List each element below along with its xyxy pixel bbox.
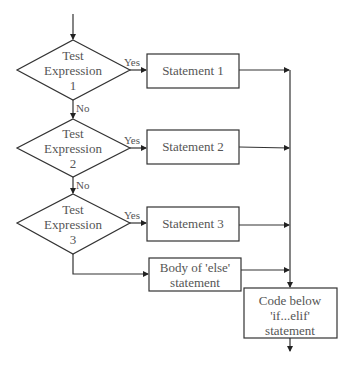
decision-1-line3: 1 (70, 78, 77, 93)
no-label-2: No (76, 179, 90, 191)
decision-1-line2: Expression (44, 63, 102, 78)
statement-2-box: Statement 2 (147, 130, 239, 164)
final-line2: 'if...elif' (270, 308, 310, 323)
no-label-1: No (76, 102, 90, 114)
else-body-line1: Body of 'else' (160, 260, 230, 275)
yes-label-1: Yes (124, 56, 140, 68)
else-arrow (73, 254, 148, 274)
final-line1: Code below (259, 293, 322, 308)
yes-label-2: Yes (124, 134, 140, 146)
statement-2-label: Statement 2 (162, 139, 224, 154)
statement-1-label: Statement 1 (162, 63, 224, 78)
decision-3-line3: 3 (70, 232, 77, 247)
flowchart-canvas: Test Expression 1 Yes No Statement 1 Tes… (0, 0, 352, 367)
decision-3-line1: Test (62, 202, 84, 217)
decision-3-line2: Expression (44, 217, 102, 232)
decision-2-line2: Expression (44, 141, 102, 156)
statement-3-box: Statement 3 (147, 207, 239, 241)
statement-1-box: Statement 1 (147, 54, 239, 88)
final-line3: statement (265, 323, 315, 338)
else-body-line2: statement (170, 275, 220, 290)
decision-1: Test Expression 1 (17, 40, 130, 100)
decision-2-line1: Test (62, 126, 84, 141)
else-body-box: Body of 'else' statement (149, 258, 241, 291)
decision-1-line1: Test (62, 48, 84, 63)
decision-2-line3: 2 (70, 156, 77, 171)
yes-label-3: Yes (124, 209, 140, 221)
decision-2: Test Expression 2 (17, 119, 130, 177)
statement-2-out-arrow (239, 147, 289, 148)
decision-3: Test Expression 3 (17, 194, 130, 254)
statement-3-label: Statement 3 (162, 216, 224, 231)
final-code-box: Code below 'if...elif' statement (244, 288, 337, 338)
